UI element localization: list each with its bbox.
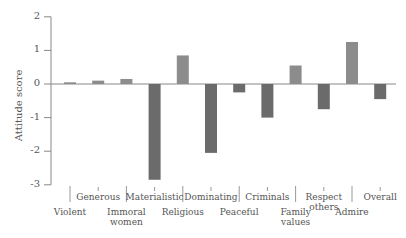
bar-peaceful <box>233 84 245 92</box>
category-label: Religious <box>162 207 204 217</box>
category-label: Overall <box>364 192 397 202</box>
bar-family-values <box>290 66 302 84</box>
category-label: Generous <box>76 192 120 202</box>
bar-materialistic <box>149 84 161 180</box>
y-tick-label: -1 <box>20 111 40 122</box>
bar-overall <box>374 84 386 99</box>
category-label: Dominating <box>184 192 237 202</box>
bar-religious <box>177 55 189 84</box>
y-tick-label: -2 <box>20 144 40 155</box>
y-tick-label: 0 <box>20 77 40 88</box>
bar-chart: Attitude score 210-1-2-3 ViolentGenerous… <box>0 0 406 238</box>
y-tick-label: 1 <box>20 43 40 54</box>
bar-immoral-women <box>120 79 132 84</box>
category-label: Criminals <box>245 192 289 202</box>
plot-area <box>0 0 406 238</box>
category-label: Peaceful <box>220 207 259 217</box>
y-tick-label: -3 <box>20 178 40 189</box>
bar-criminals <box>261 84 273 118</box>
bar-dominating <box>205 84 217 153</box>
category-label: Materialistic <box>126 192 184 202</box>
bar-respect-others <box>318 84 330 109</box>
bar-generous <box>92 81 104 84</box>
y-tick-label: 2 <box>20 10 40 21</box>
category-label: Immoralwomen <box>107 207 146 227</box>
category-label: Admire <box>335 207 368 217</box>
bar-violent <box>64 82 76 84</box>
category-label: Violent <box>54 207 86 217</box>
bar-admire <box>346 42 358 84</box>
